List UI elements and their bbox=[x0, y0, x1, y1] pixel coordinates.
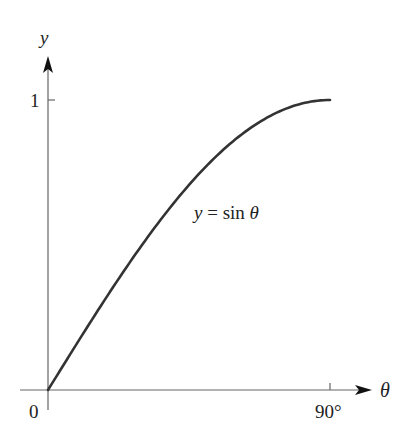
sine-curve bbox=[48, 100, 330, 390]
chart-canvas: y θ 0 1 90° y = sin θ bbox=[0, 0, 413, 440]
x-axis-label: θ bbox=[380, 379, 390, 401]
y-tick-label: 1 bbox=[30, 90, 40, 111]
curve-annotation: y = sin θ bbox=[192, 202, 259, 223]
x-tick-label: 90° bbox=[315, 401, 342, 422]
y-axis-label: y bbox=[38, 27, 49, 48]
origin-label: 0 bbox=[29, 401, 39, 422]
